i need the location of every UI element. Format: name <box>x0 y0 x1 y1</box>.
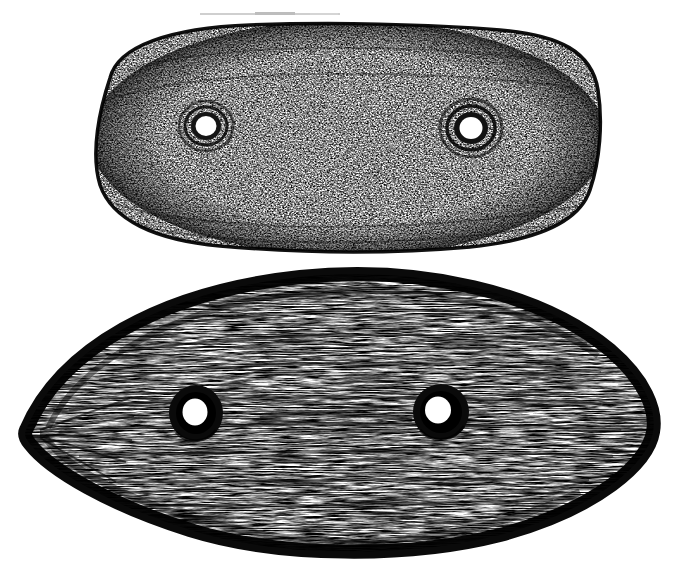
upper-artifact-rim-shading <box>90 20 606 256</box>
lower-left-hole <box>169 385 223 441</box>
artifact-illustration <box>0 0 677 574</box>
upper-artifact <box>80 18 610 262</box>
lower-right-hole <box>413 384 469 440</box>
figure-page: Two perforated oblong stone artifacts <box>0 0 677 574</box>
